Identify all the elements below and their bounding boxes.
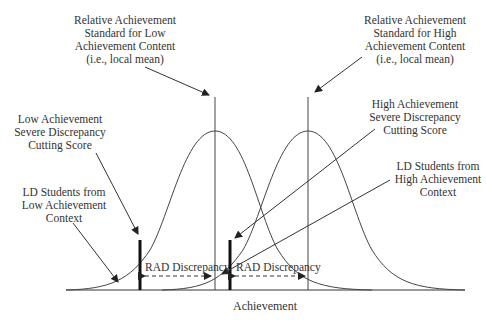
pointer-ld-low: [73, 223, 118, 282]
label-line: Achievement Content: [350, 40, 480, 53]
rad-discrepancy-diagram: RAD Discrepancy RAD Discrepancy Relative…: [0, 0, 487, 322]
label-line: (i.e., local mean): [50, 53, 200, 66]
label-line: Low Achievement: [10, 113, 110, 126]
label-line: High Achievement: [388, 173, 487, 186]
rad-discrepancy-label-left: RAD Discrepancy: [145, 261, 213, 274]
label-high-cutting-score: High Achievement Severe Discrepancy Cutt…: [365, 98, 465, 137]
x-axis-label: Achievement: [220, 300, 310, 313]
label-ld-high-context: LD Students from High Achievement Contex…: [388, 160, 487, 199]
label-line: LD Students from: [388, 160, 487, 173]
pointer-ld-high: [222, 180, 390, 274]
rad-left-text: RAD Discrepancy: [145, 261, 213, 274]
pointer-high-cutting: [235, 129, 375, 238]
pointer-low-mean: [145, 67, 209, 95]
label-line: Low Achievement: [14, 199, 114, 212]
label-line: (i.e., local mean): [350, 53, 480, 66]
label-low-cutting-score: Low Achievement Severe Discrepancy Cutti…: [10, 113, 110, 152]
label-line: Achievement Content: [50, 40, 200, 53]
label-line: Standard for High: [350, 27, 480, 40]
label-line: Severe Discrepancy: [365, 111, 465, 124]
label-high-local-mean: Relative Achievement Standard for High A…: [350, 14, 480, 66]
rad-right-text: RAD Discrepancy: [236, 261, 306, 274]
label-line: Cutting Score: [365, 124, 465, 137]
label-low-local-mean: Relative Achievement Standard for Low Ac…: [50, 14, 200, 66]
label-line: Severe Discrepancy: [10, 126, 110, 139]
x-axis-label-text: Achievement: [220, 300, 310, 313]
label-line: High Achievement: [365, 98, 465, 111]
label-ld-low-context: LD Students from Low Achievement Context: [14, 186, 114, 225]
label-line: Context: [388, 186, 487, 199]
label-line: Standard for Low: [50, 27, 200, 40]
label-line: LD Students from: [14, 186, 114, 199]
label-line: Relative Achievement: [50, 14, 200, 27]
label-line: Context: [14, 212, 114, 225]
label-line: Relative Achievement: [350, 14, 480, 27]
rad-discrepancy-label-right: RAD Discrepancy: [236, 261, 306, 274]
label-line: Cutting Score: [10, 139, 110, 152]
